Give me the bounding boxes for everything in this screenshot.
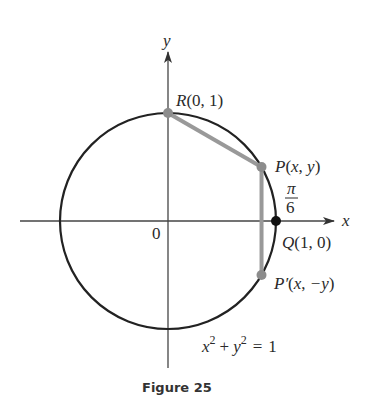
eq-plus: + <box>220 337 230 356</box>
figure-caption: Figure 25 <box>142 380 212 395</box>
label-p: P(x, y) <box>274 157 320 176</box>
chord-r-p <box>168 113 262 167</box>
label-p-y: y <box>305 157 315 176</box>
point-q <box>271 216 281 226</box>
point-p-prime <box>257 270 267 280</box>
point-p <box>257 162 267 172</box>
label-q-name: Q <box>282 233 294 252</box>
unit-circle-diagram: y x 0 R(0, 1) P(x, y) π 6 Q(1, 0) P′(x, … <box>0 0 373 407</box>
label-pp-close: ) <box>329 274 335 293</box>
y-axis-label: y <box>161 31 171 50</box>
label-p-close: ) <box>315 157 321 176</box>
point-r <box>163 108 173 118</box>
label-q-coords: (1, 0) <box>294 233 331 252</box>
eq-rhs: 1 <box>268 337 277 356</box>
x-axis-label: x <box>341 211 350 230</box>
label-p-name: P <box>274 157 285 176</box>
label-pp-y: −y <box>310 274 329 293</box>
label-pp-comma: , <box>301 274 310 293</box>
label-pp-name: P′ <box>273 274 288 293</box>
eq-equals: = <box>253 337 263 356</box>
circle-equation: x2+y2=1 <box>201 333 277 356</box>
label-r-name: R <box>175 91 187 110</box>
eq-y: y <box>231 337 241 356</box>
eq-exp2: 2 <box>241 333 247 347</box>
label-p-comma: , <box>299 157 308 176</box>
label-r-coords: (0, 1) <box>186 91 223 110</box>
label-p-prime: P′(x, −y) <box>273 274 335 293</box>
eq-exp1: 2 <box>210 333 216 347</box>
origin-label: 0 <box>152 224 161 243</box>
label-q: Q(1, 0) <box>282 233 331 252</box>
angle-numerator: π <box>287 179 296 198</box>
angle-denominator: 6 <box>286 198 295 217</box>
label-r: R(0, 1) <box>175 91 223 110</box>
